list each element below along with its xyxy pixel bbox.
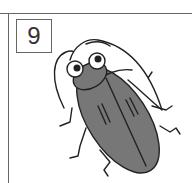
- cockroach-icon: [0, 0, 192, 183]
